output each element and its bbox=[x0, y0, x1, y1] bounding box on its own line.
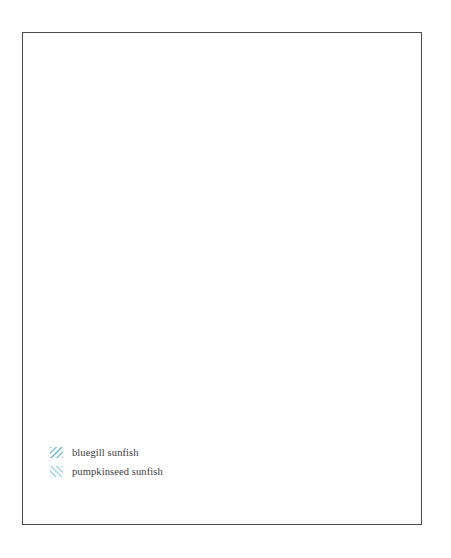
legend: bluegill sunfish pumpkinseed sunfish bbox=[50, 443, 250, 481]
legend-item-label: bluegill sunfish bbox=[72, 447, 139, 458]
legend-item-pumpkinseed: pumpkinseed sunfish bbox=[50, 462, 250, 481]
legend-item-label: pumpkinseed sunfish bbox=[72, 466, 163, 477]
hatch-swatch-icon bbox=[50, 447, 63, 458]
range-map-figure: bluegill sunfish pumpkinseed sunfish bbox=[0, 0, 451, 558]
legend-item-bluegill: bluegill sunfish bbox=[50, 443, 250, 462]
hatch-swatch-icon bbox=[50, 466, 63, 477]
